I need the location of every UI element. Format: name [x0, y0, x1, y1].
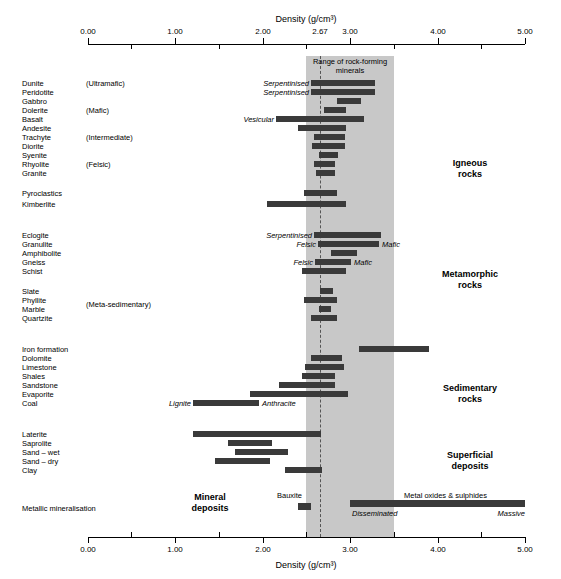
row-label-sandstone: Sandstone [22, 382, 58, 390]
bar-note-eclogite: Serpentinised [266, 232, 312, 240]
row-label-eclogite: Eclogite [22, 232, 49, 240]
bar-andesite [298, 125, 346, 131]
bar-trachyte [314, 134, 345, 140]
bar-granite [316, 170, 335, 176]
row-label-sand-dry: Sand – dry [22, 458, 58, 466]
section-title-sedimentary: Sedimentary rocks [443, 383, 497, 405]
row-label-limestone: Limestone [22, 364, 57, 372]
row-group-felsic: (Felsic) [86, 161, 111, 169]
bar-saprolite [228, 440, 272, 446]
section-title-mineral: Mineral deposits [191, 492, 228, 514]
bar-pyroclastics [304, 190, 337, 196]
bar-sandstone [279, 382, 335, 388]
bar-note-basalt: Vesicular [243, 116, 274, 124]
bar-note-granulite-right: Mafic [382, 241, 400, 249]
section-title-superficial: Superficial deposits [447, 450, 493, 472]
bar-note-disseminated: Disseminated [352, 510, 397, 518]
bar-marble [319, 306, 331, 312]
section-title-metamorphic-line2: rocks [458, 280, 482, 290]
bar-note-metal-oxides-sulphides: Metal oxides & sulphides [404, 492, 487, 500]
row-label-slate: Slate [22, 288, 39, 296]
row-label-amphibolite: Amphibolite [22, 250, 61, 258]
row-label-shales: Shales [22, 373, 45, 381]
bottom-tick-label-5: 5.00 [517, 545, 533, 554]
bottom-minor-tick-4 [481, 532, 482, 537]
bar-schist [302, 268, 346, 274]
bottom-minor-tick-2 [306, 532, 307, 537]
section-title-igneous: Igneous rocks [453, 158, 488, 180]
bar-gabbro [337, 98, 361, 104]
section-title-metamorphic-line1: Metamorphic [442, 269, 498, 279]
bar-bauxite [298, 503, 311, 510]
row-label-laterite: Laterite [22, 431, 47, 439]
row-label-andesite: Andesite [22, 125, 51, 133]
bar-clay [285, 467, 322, 473]
bar-amphibolite [331, 250, 357, 256]
row-label-granulite: Granulite [22, 241, 52, 249]
bar-note-dunite: Serpentinised [263, 80, 309, 88]
top-tick-label-2: 2.00 [255, 27, 271, 36]
top-minor-tick-2 [306, 44, 307, 49]
bar-peridotite [311, 89, 375, 95]
bottom-axis-line [88, 537, 525, 538]
row-label-pyroclastics: Pyroclastics [22, 190, 62, 198]
row-label-rhyolite: Rhyolite [22, 161, 49, 169]
top-tick-label-0: 0.00 [80, 27, 96, 36]
top-tick-label-5: 5.00 [517, 27, 533, 36]
bar-gneiss [315, 259, 351, 265]
row-label-marble: Marble [22, 306, 45, 314]
row-label-clay: Clay [22, 467, 37, 475]
bar-note-gneiss-left: Felsic [293, 259, 313, 267]
bar-kimberlite [267, 201, 346, 207]
bar-laterite [193, 431, 321, 437]
row-label-iron-formation: Iron formation [22, 346, 68, 354]
bottom-tick-4 [438, 537, 439, 543]
reference-line-label: 2.67 [312, 27, 328, 36]
bar-sand-dry [215, 458, 270, 464]
bar-granulite [318, 241, 379, 247]
top-minor-tick-0 [131, 44, 132, 49]
band-label-line1: Range of rock-forming [313, 57, 387, 66]
top-tick-label-4: 4.00 [430, 27, 446, 36]
bottom-tick-label-0: 0.00 [80, 545, 96, 554]
bottom-tick-label-3: 3.00 [342, 545, 358, 554]
row-label-gneiss: Gneiss [22, 259, 45, 267]
bar-note-coal-anthracite: Anthracite [262, 400, 296, 408]
row-label-quartzite: Quartzite [22, 315, 52, 323]
top-tick-3 [350, 38, 351, 44]
row-group-ultramafic: (Ultramafic) [86, 80, 125, 88]
bottom-axis-title: Density (g/cm³) [275, 560, 336, 570]
density-chart: Range of rock-forming minerals Density (… [0, 0, 561, 579]
row-label-basalt: Basalt [22, 116, 43, 124]
section-title-mineral-line2: deposits [191, 503, 228, 513]
row-label-schist: Schist [22, 268, 42, 276]
row-label-phyllite: Phyllite [22, 297, 46, 305]
bottom-tick-2 [263, 537, 264, 543]
row-label-diorite: Diorite [22, 143, 44, 151]
bottom-tick-label-1: 1.00 [167, 545, 183, 554]
bottom-tick-5 [525, 537, 526, 543]
row-group-meta-sedimentary: (Meta-sedimentary) [86, 301, 151, 309]
row-label-syenite: Syenite [22, 152, 47, 160]
bar-slate [320, 288, 333, 294]
row-label-sand-wet: Sand – wet [22, 449, 60, 457]
top-minor-tick-3 [394, 44, 395, 49]
top-tick-1 [175, 38, 176, 44]
bar-sand-wet [235, 449, 288, 455]
row-label-trachyte: Trachyte [22, 134, 51, 142]
bottom-tick-1 [175, 537, 176, 543]
row-label-gabbro: Gabbro [22, 98, 47, 106]
bar-dunite [311, 80, 375, 86]
bar-dolomite [311, 355, 342, 361]
top-tick-5 [525, 38, 526, 44]
top-tick-label-1: 1.00 [167, 27, 183, 36]
bar-eclogite [314, 232, 381, 238]
bar-syenite [319, 152, 338, 158]
bar-coal [193, 400, 259, 406]
top-axis-title: Density (g/cm³) [275, 14, 336, 24]
bottom-minor-tick-0 [131, 532, 132, 537]
row-label-metallic-mineralisation: Metallic mineralisation [22, 505, 96, 513]
bar-note-massive: Massive [497, 510, 525, 518]
section-title-mineral-line1: Mineral [194, 492, 226, 502]
section-title-sedimentary-line1: Sedimentary [443, 383, 497, 393]
